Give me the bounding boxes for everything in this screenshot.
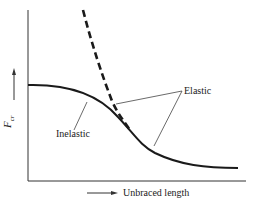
- column-buckling-diagram: [0, 0, 253, 207]
- elastic-leaders: [116, 91, 182, 146]
- x-axis-arrow-icon: [87, 191, 118, 195]
- elastic-label: Elastic: [184, 85, 211, 96]
- inelastic-label: Inelastic: [56, 128, 90, 139]
- y-axis-label: Fcr: [1, 115, 16, 128]
- elastic-euler-curve: [83, 10, 130, 130]
- y-axis-arrow-icon: [12, 68, 16, 100]
- inelastic-leader: [74, 102, 87, 130]
- inelastic-curve: [28, 85, 238, 168]
- x-axis-label: Unbraced length: [123, 187, 189, 198]
